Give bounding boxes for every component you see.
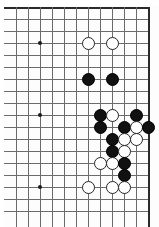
stone-white-6-3[interactable] xyxy=(82,37,95,50)
board-grid-line-horizontal-16 xyxy=(0,199,148,200)
stone-black-11-10[interactable] xyxy=(142,121,155,134)
stone-white-10-10[interactable] xyxy=(130,121,143,134)
board-grid-line-vertical-5 xyxy=(76,7,77,227)
stone-white-8-9[interactable] xyxy=(106,109,119,122)
board-grid-line-horizontal-1 xyxy=(0,19,148,20)
scan-margin-left xyxy=(0,0,4,227)
scan-margin-top xyxy=(0,0,159,5)
board-grid-line-vertical-11 xyxy=(148,7,150,227)
stone-white-9-12[interactable] xyxy=(118,145,131,158)
board-grid-line-horizontal-0 xyxy=(0,7,148,9)
board-grid-line-vertical-4 xyxy=(64,7,65,227)
board-grid-line-horizontal-3 xyxy=(0,43,148,44)
stone-black-9-13[interactable] xyxy=(118,157,131,170)
board-grid-line-vertical-3 xyxy=(52,7,53,227)
stone-black-10-9[interactable] xyxy=(130,109,143,122)
stone-white-8-13[interactable] xyxy=(106,157,119,170)
star-point-2 xyxy=(38,185,42,189)
stone-black-8-12[interactable] xyxy=(106,145,119,158)
stone-white-7-13[interactable] xyxy=(94,157,107,170)
star-point-0 xyxy=(38,41,42,45)
board-grid-line-vertical-0 xyxy=(16,7,17,227)
go-board[interactable] xyxy=(0,0,159,227)
stone-black-8-6[interactable] xyxy=(106,73,119,86)
stone-white-6-15[interactable] xyxy=(82,181,95,194)
stone-white-10-11[interactable] xyxy=(130,133,143,146)
board-grid-line-horizontal-7 xyxy=(0,91,148,92)
board-grid-line-vertical-2 xyxy=(40,7,41,227)
stone-black-8-11[interactable] xyxy=(106,133,119,146)
star-point-1 xyxy=(38,113,42,117)
stone-black-6-6[interactable] xyxy=(82,73,95,86)
go-diagram-screenshot xyxy=(0,0,159,227)
board-grid-line-vertical-9 xyxy=(124,7,125,227)
stone-black-7-10[interactable] xyxy=(94,121,107,134)
stone-white-9-15[interactable] xyxy=(118,181,131,194)
board-grid-line-horizontal-9 xyxy=(0,115,148,116)
board-grid-line-horizontal-4 xyxy=(0,55,148,56)
board-grid-line-horizontal-17 xyxy=(0,211,148,212)
stone-black-7-9[interactable] xyxy=(94,109,107,122)
board-grid-line-horizontal-2 xyxy=(0,31,148,32)
stone-black-9-10[interactable] xyxy=(118,121,131,134)
stone-black-9-14[interactable] xyxy=(118,169,131,182)
board-grid-line-horizontal-6 xyxy=(0,79,148,80)
stone-white-9-11[interactable] xyxy=(118,133,131,146)
board-grid-line-vertical-1 xyxy=(28,7,29,227)
stone-white-8-15[interactable] xyxy=(106,181,119,194)
stone-white-8-3[interactable] xyxy=(106,37,119,50)
board-grid-line-horizontal-8 xyxy=(0,103,148,104)
board-grid-line-horizontal-5 xyxy=(0,67,148,68)
